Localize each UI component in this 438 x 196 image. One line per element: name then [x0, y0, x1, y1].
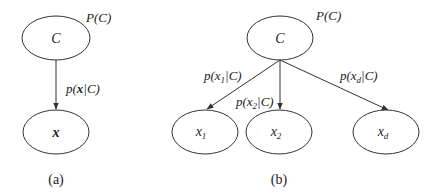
- prior-label: P(C): [85, 10, 111, 25]
- edge-label-p-x-given-c: p(x|C): [65, 81, 100, 96]
- panel-b: C P(C) p(x1|C) p(x2|C) p(xd|C) x1 x2 xd …: [172, 8, 419, 188]
- class-node-label-b: C: [275, 31, 285, 46]
- edge-label-p-x2-given-c: p(x2|C): [235, 94, 274, 111]
- class-node-label: C: [51, 31, 61, 46]
- caption-a: (a): [48, 172, 64, 188]
- prior-label-b: P(C): [315, 8, 341, 23]
- edge-label-p-xd-given-c: p(xd|C): [339, 68, 378, 85]
- edge-label-p-x1-given-c: p(x1|C): [203, 68, 242, 85]
- naive-bayes-diagram: C P(C) p(x|C) x (a) C P(C) p(x1|C) p(x2|…: [0, 0, 438, 196]
- panel-a: C P(C) p(x|C) x (a): [22, 10, 111, 188]
- caption-b: (b): [271, 172, 288, 188]
- feature-node-label: x: [52, 125, 60, 140]
